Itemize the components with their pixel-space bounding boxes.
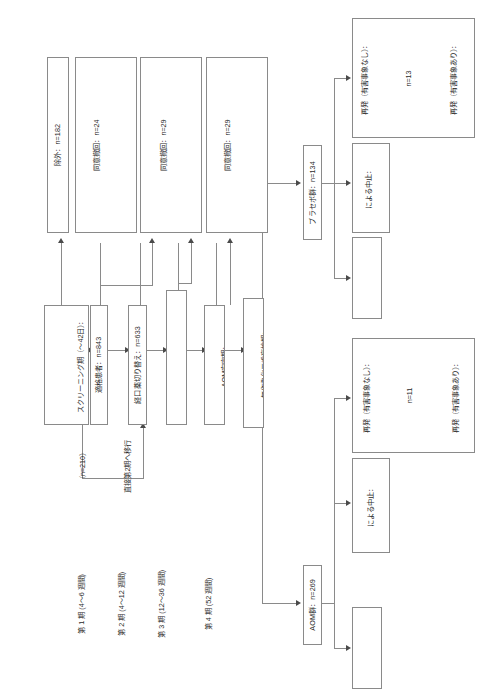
- placebo-fan-stub: [322, 183, 334, 184]
- elbow-dropout1-v: [152, 243, 153, 285]
- dropout-box-phase1: 中止：n=133 治験依頼者の要請ᵃ：n=54 追跡不能：n=13 同意撤回：n…: [75, 57, 137, 233]
- aom-disc-stack: 中止：n=67（24.9%） 有害事象： n=9 再発（有害事象あり）： n=1…: [353, 339, 474, 452]
- oral-switch-label: 経口薬切り替え：n=633: [133, 326, 143, 404]
- arrow-placebo-disc: [346, 75, 351, 81]
- connector-screening-to-eligible: [61, 243, 62, 305]
- direct-entry-label: 直接第2期へ移行 （n=210）: [95, 418, 123, 513]
- aom-fan-spine: [334, 398, 335, 648]
- aom-discontinuation-box: 中止：n=67（24.9%） 有害事象： n=9 再発（有害事象あり）： n=1…: [352, 338, 475, 453]
- excluded-label: 除外：n=182: [53, 124, 63, 166]
- direct-entry-line-2: （n=210）: [78, 448, 88, 482]
- placebo-disc-stack: 中止：n=73（54.5%） 有害事象： n=5 再発（有害事象あり）： n=1…: [353, 19, 474, 137]
- aom-arm-label: AOM群：n=269: [308, 579, 318, 631]
- arrow-to-excluded: [58, 238, 64, 243]
- elbow-dropout2-h: [178, 283, 192, 284]
- placebo-fan-spine: [334, 78, 335, 278]
- random-text-stack: 無作為化二重盲検期： n=403: [244, 299, 263, 427]
- aom-disc-line-5: n=11: [405, 388, 414, 404]
- aom-sponsor-stack: 治験依頼者の要請 による中止： n=179（66.5%）: [353, 459, 389, 552]
- dropout3-line-4: 同意撤回：n=29: [222, 119, 232, 170]
- arrow-to-aom-arm: [296, 600, 301, 606]
- flow-box-screening: スクリーニング期（〜42日）： n=1,025: [44, 305, 89, 425]
- placebo-completion-box: 52週試験完了： n=3（2.2%）: [352, 237, 382, 319]
- arm-box-placebo: プラセボ群：n=134: [303, 145, 322, 240]
- arrow-placebo-sponsor: [346, 180, 351, 186]
- flow-box-aom-stabilization: AOM安定期： n=576: [204, 305, 225, 425]
- aom-sponsor-discontinuation-box: 治験依頼者の要請 による中止： n=179（66.5%）: [352, 458, 390, 553]
- direct-entry-stack: 直接第2期へ移行 （n=210）: [95, 418, 123, 513]
- excluded-box: 除外：n=182: [47, 57, 69, 233]
- arrow-aom-compl: [346, 645, 351, 651]
- eligible-label: 適格患者：n=843: [94, 337, 104, 393]
- dropout2-line-4: 同意撤回：n=29: [157, 119, 167, 170]
- phase-label-3: 第 3 期 (12〜36 週間): [152, 552, 172, 656]
- arrow-to-dropout3: [227, 238, 233, 243]
- placebo-arm-label: プラセボ群：n=134: [308, 161, 318, 224]
- arrow-aom-sponsor: [346, 500, 351, 506]
- phase-3-text: 第 3 期 (12〜36 週間): [157, 570, 167, 638]
- placebo-sponsor-line-2: による中止：: [363, 167, 373, 209]
- dropout1-line-4: 同意撤回：n=24: [90, 119, 100, 170]
- aom-completion-box: 52週試験完了： n=23（8.6%）: [352, 607, 382, 689]
- placebo-sponsor-discontinuation-box: 治験依頼者の要請 による中止： n=58（43.3%）: [352, 143, 390, 233]
- flow-box-oral-switch: 経口薬切り替え：n=633: [128, 305, 147, 425]
- phase-4-text: 第 4 期 (52 週間): [203, 578, 213, 631]
- placebo-disc-line-4: 再発（有害事象あり）：: [447, 42, 457, 115]
- flow-box-oral-stabilization: Aripiprazole経口薬安定期 （19.2mg／日）：n=710b: [166, 290, 187, 425]
- elbow-dropout1-h: [100, 285, 153, 286]
- aom-stab-line-1: AOM安定期：: [220, 343, 225, 387]
- aom-sponsor-line-2: による中止：: [365, 485, 375, 527]
- arrow-to-dropout1: [149, 238, 155, 243]
- phase-1-text: 第 1 期 (4〜6 週間): [77, 574, 87, 634]
- placebo-sponsor-stack: 治験依頼者の要請 による中止： n=58（43.3%）: [353, 144, 389, 232]
- aom-stab-text-stack: AOM安定期： n=576: [205, 306, 224, 424]
- placebo-disc-line-6: 再発（有害事象なし）：: [358, 42, 368, 115]
- connector-switch-to-oral: [140, 243, 141, 305]
- phase-label-1: 第 1 期 (4〜6 週間): [72, 552, 92, 656]
- phase-2-text: 第 2 期 (4〜12 週間): [117, 572, 127, 636]
- dropout1-stack: 中止：n=133 治験依頼者の要請ᵃ：n=54 追跡不能：n=13 同意撤回：n…: [76, 58, 136, 232]
- arrow-placebo-compl: [346, 275, 351, 281]
- aom-disc-line-6: 再発（有害事象なし）：: [361, 359, 371, 432]
- random-to-aom: [262, 603, 298, 604]
- placebo-completion-stack: 52週試験完了： n=3（2.2%）: [353, 238, 381, 318]
- screening-text-stack: スクリーニング期（〜42日）： n=1,025: [45, 306, 88, 424]
- random-line-1: 無作為化二重盲検期：: [259, 328, 264, 398]
- dropout-box-phase2: 中止：n=134 治験依頼者の要請ᵃ：n=42 追跡不能：n=7 同意撤回：n=…: [140, 57, 202, 233]
- aom-fan-stub: [322, 603, 334, 604]
- elbow-dropout2-v: [191, 243, 192, 283]
- direct-entry-v2: [143, 428, 144, 479]
- elbow-dropout3-v: [230, 243, 231, 305]
- flow-box-randomized-double-blind: 無作為化二重盲検期： n=403: [243, 298, 264, 428]
- arrow-to-dropout2: [188, 238, 194, 243]
- connector-aom-to-random: [216, 243, 217, 305]
- oral-stab-text-stack: Aripiprazole経口薬安定期 （19.2mg／日）：n=710b: [167, 291, 186, 424]
- elbow-dropout1-stem: [100, 285, 101, 305]
- screening-line-1: スクリーニング期（〜42日）：: [75, 318, 85, 413]
- aom-disc-line-4: 再発（有害事象あり）：: [449, 359, 459, 432]
- arm-box-aom: AOM群：n=269: [303, 565, 322, 645]
- flow-box-eligible: 適格患者：n=843: [90, 305, 108, 425]
- aom-completion-stack: 52週試験完了： n=23（8.6%）: [353, 608, 381, 688]
- dropout3-stack: 中止：n=173 治験依頼者の要請ᵃ：n=86 追跡不能：n=11 同意撤回：n…: [207, 58, 267, 232]
- direct-entry-line-1: 直接第2期へ移行: [121, 439, 131, 492]
- phase-label-2: 第 2 期 (4〜12 週間): [112, 552, 132, 656]
- arrow-to-placebo-arm: [296, 180, 301, 186]
- phase-label-4: 第 4 期 (52 週間): [198, 552, 218, 656]
- arrow-aom-disc: [346, 395, 351, 401]
- placebo-discontinuation-box: 中止：n=73（54.5%） 有害事象： n=5 再発（有害事象あり）： n=1…: [352, 18, 475, 138]
- dropout-box-phase3: 中止：n=173 治験依頼者の要請ᵃ：n=86 追跡不能：n=11 同意撤回：n…: [206, 57, 268, 233]
- placebo-disc-line-5: n=13: [403, 70, 412, 86]
- dropout2-stack: 中止：n=134 治験依頼者の要請ᵃ：n=42 追跡不能：n=7 同意撤回：n=…: [141, 58, 201, 232]
